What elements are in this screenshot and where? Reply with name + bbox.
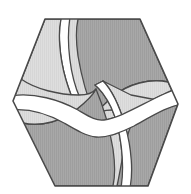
hexagonal-pinwheel-logo (0, 0, 191, 194)
